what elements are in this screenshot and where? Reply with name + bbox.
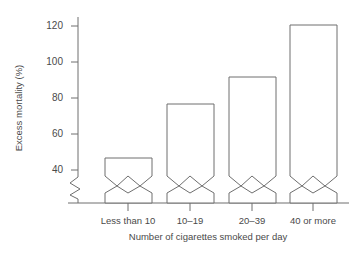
bar-10-19[interactable] xyxy=(167,104,214,186)
y-tick-label-60: 60 xyxy=(52,128,64,139)
bar-stub-10-19[interactable] xyxy=(167,186,214,203)
y-axis-title: Excess mortality (%) xyxy=(13,65,24,152)
bar-stub-40-or-more[interactable] xyxy=(290,186,337,203)
bar-20-39[interactable] xyxy=(229,77,276,186)
bar-less-than-10[interactable] xyxy=(105,158,152,186)
x-category-label-0: Less than 10 xyxy=(101,215,155,226)
x-axis-title: Number of cigarettes smoked per day xyxy=(129,231,288,242)
y-tick-label-100: 100 xyxy=(46,56,63,67)
bar-stub-less-than-10[interactable] xyxy=(105,186,152,203)
y-tick-label-40: 40 xyxy=(52,164,64,175)
x-category-label-2: 20–39 xyxy=(239,215,265,226)
x-category-label-1: 10–19 xyxy=(177,215,203,226)
y-tick-label-120: 120 xyxy=(46,20,63,31)
y-axis-break-zigzag xyxy=(70,177,80,199)
bar-40-or-more[interactable] xyxy=(290,25,337,186)
bar-chart: Excess mortality (%) 120 100 80 60 40 Le… xyxy=(0,0,362,260)
chart-container: Excess mortality (%) 120 100 80 60 40 Le… xyxy=(0,0,362,260)
y-tick-label-80: 80 xyxy=(52,92,64,103)
bar-stub-20-39[interactable] xyxy=(229,186,276,203)
x-category-label-3: 40 or more xyxy=(290,215,336,226)
